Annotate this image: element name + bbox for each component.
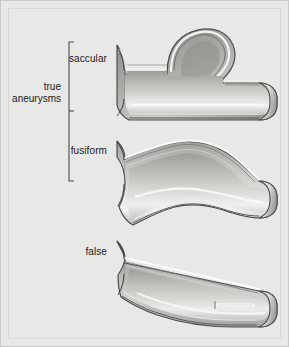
true-aneurysms-group-label: true aneurysms: [9, 81, 61, 105]
group-label-line-1: true: [9, 81, 61, 93]
saccular-aneurysm-illustration: [117, 29, 277, 120]
aneurysm-types-figure: true aneurysms saccular fusiform false: [0, 0, 289, 347]
saccular-label: saccular: [39, 53, 107, 64]
false-label: false: [39, 246, 107, 257]
fusiform-label: fusiform: [39, 145, 107, 156]
fusiform-aneurysm-illustration: [117, 140, 277, 225]
group-label-line-2: aneurysms: [9, 93, 61, 105]
false-aneurysm-illustration: [117, 241, 277, 327]
